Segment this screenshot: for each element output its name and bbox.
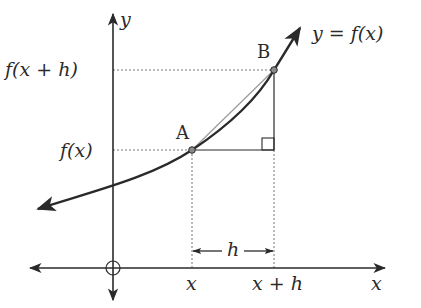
point-A <box>189 147 196 154</box>
interval-h-label: h <box>225 240 241 259</box>
point-B <box>271 67 278 74</box>
tick-label-x: x <box>186 274 197 293</box>
x-axis-label: x <box>371 274 382 293</box>
right-angle-icon <box>262 138 274 150</box>
guide-lines <box>113 70 274 268</box>
tick-label-fx: f(x) <box>60 141 93 160</box>
tick-label-x-plus-h: x + h <box>252 274 303 293</box>
y-axis-label: y <box>120 10 131 29</box>
tick-label-fxh: f(x + h) <box>5 60 78 79</box>
point-B-label: B <box>257 43 270 61</box>
point-A-label: A <box>176 124 189 142</box>
curve-label: y = f(x) <box>312 24 383 43</box>
